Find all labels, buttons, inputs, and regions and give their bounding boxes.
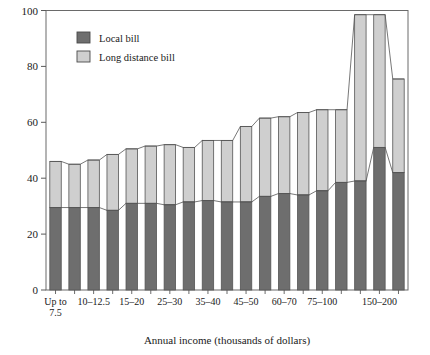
bar-group	[393, 79, 404, 290]
y-tick-label: 60	[27, 116, 39, 128]
legend-swatch-local-bill	[77, 32, 90, 43]
bar-segment-long-distance-bill	[183, 147, 194, 202]
bar-group	[50, 161, 61, 290]
y-tick-label: 0	[33, 284, 39, 296]
bar-segment-long-distance-bill	[374, 15, 385, 148]
legend-swatch-long-distance-bill	[77, 51, 90, 62]
x-tick-label: 7.5	[49, 307, 62, 318]
bar-segment-local-bill	[202, 201, 213, 290]
y-tick-label: 100	[22, 5, 39, 17]
bar-segment-local-bill	[183, 202, 194, 290]
bar-segment-local-bill	[259, 196, 270, 290]
bar-segment-long-distance-bill	[69, 164, 80, 207]
bar-group	[374, 15, 385, 290]
bar-group	[88, 160, 99, 290]
bar-group	[317, 110, 328, 290]
bar-segment-local-bill	[278, 194, 289, 290]
bar-segment-long-distance-bill	[393, 79, 404, 173]
bar-group	[126, 149, 137, 290]
x-tick-label: Up to	[44, 296, 67, 307]
bar-group	[336, 110, 347, 290]
bar-segment-long-distance-bill	[297, 113, 308, 195]
bar-segment-long-distance-bill	[278, 117, 289, 194]
bar-segment-long-distance-bill	[355, 15, 366, 181]
bar-segment-long-distance-bill	[259, 118, 270, 196]
bar-group	[297, 113, 308, 290]
x-tick-label: 10–12.5	[77, 296, 110, 307]
bar-segment-local-bill	[126, 203, 137, 290]
bar-segment-local-bill	[297, 195, 308, 290]
x-tick-label: 25–30	[157, 296, 182, 307]
x-tick-label: 15–20	[119, 296, 144, 307]
bar-segment-local-bill	[221, 202, 232, 290]
bar-group	[278, 117, 289, 290]
bar-segment-long-distance-bill	[107, 154, 118, 210]
x-tick-label: 75–100	[307, 296, 337, 307]
bar-segment-local-bill	[88, 208, 99, 290]
bar-segment-local-bill	[107, 210, 118, 290]
y-tick-label: 40	[27, 172, 39, 184]
bar-group	[183, 147, 194, 290]
stacked-bar-chart: 020406080100 Up to7.510–12.515–2025–3035…	[0, 0, 430, 355]
bar-segment-long-distance-bill	[164, 145, 175, 205]
bar-group	[240, 126, 251, 290]
bar-segment-local-bill	[145, 203, 156, 290]
bar-segment-long-distance-bill	[317, 110, 328, 191]
x-tick-label: 45–50	[234, 296, 259, 307]
bar-group	[164, 145, 175, 290]
bar-segment-long-distance-bill	[88, 160, 99, 208]
bar-segment-long-distance-bill	[50, 161, 61, 207]
bar-segment-local-bill	[164, 205, 175, 290]
x-tick-label: 35–40	[195, 296, 220, 307]
x-tick-label: 60–70	[272, 296, 297, 307]
x-tick-label: 150–200	[362, 296, 397, 307]
legend-label-long-distance-bill: Long distance bill	[99, 52, 175, 63]
bar-segment-local-bill	[69, 208, 80, 290]
bar-group	[202, 140, 213, 290]
bar-segment-local-bill	[374, 147, 385, 290]
bar-segment-long-distance-bill	[145, 146, 156, 203]
bar-group	[259, 118, 270, 290]
bar-segment-local-bill	[336, 182, 347, 290]
bar-group	[221, 140, 232, 290]
bar-group	[145, 146, 156, 290]
bar-group	[107, 154, 118, 290]
bar-segment-local-bill	[393, 173, 404, 290]
bar-segment-long-distance-bill	[126, 149, 137, 204]
chart-container: 020406080100 Up to7.510–12.515–2025–3035…	[0, 0, 430, 355]
bar-segment-long-distance-bill	[202, 140, 213, 200]
y-tick-label: 20	[27, 228, 39, 240]
y-axis-ticks: 020406080100	[22, 5, 47, 297]
bar-segment-long-distance-bill	[336, 110, 347, 183]
bar-segment-local-bill	[50, 208, 61, 290]
bar-segment-long-distance-bill	[240, 126, 251, 201]
bar-segment-local-bill	[355, 181, 366, 290]
bar-group	[355, 15, 366, 290]
bar-group	[69, 164, 80, 290]
x-axis-tick-labels: Up to7.510–12.515–2025–3035–4045–5060–70…	[44, 290, 398, 318]
bar-segment-local-bill	[240, 202, 251, 290]
bar-segment-long-distance-bill	[221, 140, 232, 201]
bar-segment-local-bill	[317, 191, 328, 290]
y-tick-label: 80	[27, 60, 39, 72]
x-axis-title: Annual income (thousands of dollars)	[144, 334, 311, 347]
legend-label-local-bill: Local bill	[99, 33, 140, 44]
